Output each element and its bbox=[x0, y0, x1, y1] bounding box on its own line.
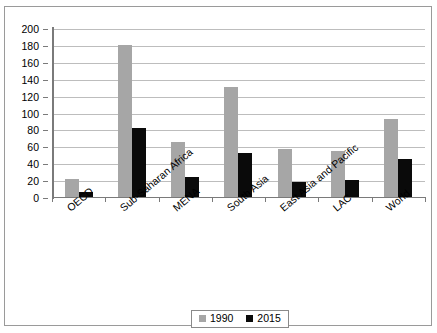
y-tick-label: 80 bbox=[5, 125, 39, 135]
y-tick-mark bbox=[43, 29, 48, 30]
bar-group bbox=[105, 29, 158, 198]
y-tick-mark bbox=[43, 114, 48, 115]
legend-item-2015: 2015 bbox=[246, 313, 280, 324]
black-swatch-icon bbox=[246, 315, 253, 322]
x-tick-mark bbox=[105, 197, 106, 202]
y-tick-label: 180 bbox=[5, 41, 39, 51]
chart-legend: 1990 2015 bbox=[191, 310, 289, 328]
y-tick-mark bbox=[43, 97, 48, 98]
y-tick-mark bbox=[43, 181, 48, 182]
legend-label-1990: 1990 bbox=[210, 313, 233, 324]
y-tick-mark bbox=[43, 147, 48, 148]
y-tick-mark bbox=[43, 63, 48, 64]
x-tick-mark bbox=[159, 197, 160, 202]
y-tick-mark bbox=[43, 46, 48, 47]
x-tick-mark bbox=[372, 197, 373, 202]
y-axis-line bbox=[52, 27, 54, 199]
y-tick-label: 100 bbox=[5, 109, 39, 119]
x-tick-mark bbox=[425, 197, 426, 202]
x-tick-mark bbox=[212, 197, 213, 202]
y-tick-mark bbox=[43, 164, 48, 165]
bar-1990 bbox=[384, 119, 398, 198]
legend-label-2015: 2015 bbox=[257, 313, 280, 324]
plot-area bbox=[52, 29, 425, 198]
x-tick-mark bbox=[265, 197, 266, 202]
y-tick-mark bbox=[43, 80, 48, 81]
y-axis-labels: 020406080100120140160180200 bbox=[5, 7, 47, 207]
chart-screenshot: 020406080100120140160180200 OECDSub-Saha… bbox=[0, 0, 437, 333]
bar-1990 bbox=[278, 149, 292, 198]
x-tick-mark bbox=[52, 197, 53, 202]
y-tick-label: 40 bbox=[5, 159, 39, 169]
y-tick-mark bbox=[43, 198, 48, 199]
y-tick-label: 120 bbox=[5, 92, 39, 102]
legend-item-1990: 1990 bbox=[199, 313, 233, 324]
chart-frame: 020406080100120140160180200 OECDSub-Saha… bbox=[4, 6, 432, 326]
y-tick-label: 160 bbox=[5, 58, 39, 68]
y-tick-label: 0 bbox=[5, 193, 39, 203]
bar-1990 bbox=[224, 87, 238, 198]
bar-group bbox=[212, 29, 265, 198]
bar-group bbox=[52, 29, 105, 198]
y-tick-label: 60 bbox=[5, 142, 39, 152]
y-tick-label: 20 bbox=[5, 176, 39, 186]
y-tick-label: 200 bbox=[5, 24, 39, 34]
y-tick-mark bbox=[43, 130, 48, 131]
x-tick-mark bbox=[318, 197, 319, 202]
y-tick-label: 140 bbox=[5, 75, 39, 85]
bar-group bbox=[265, 29, 318, 198]
bar-1990 bbox=[118, 45, 132, 198]
gray-swatch-icon bbox=[199, 315, 206, 322]
bar-group bbox=[372, 29, 425, 198]
